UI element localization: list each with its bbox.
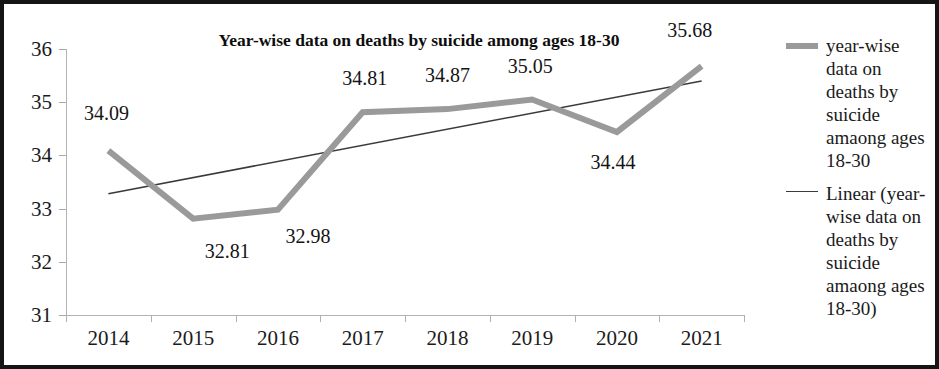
y-axis-tick-mark (59, 155, 66, 156)
legend-label-trendline: Linear (year-wise data on deaths by suic… (826, 182, 931, 320)
y-axis-tick-label: 31 (8, 305, 52, 326)
data-point-label: 32.98 (285, 225, 330, 248)
data-point-label: 35.05 (508, 55, 553, 78)
chart-legend: year-wise data on deaths by suicide amao… (786, 34, 931, 330)
y-axis-tick-label: 35 (8, 92, 52, 113)
legend-entry-series[interactable]: year-wise data on deaths by suicide amao… (786, 34, 931, 172)
data-series-line (108, 66, 701, 219)
x-axis-tick-label: 2015 (172, 326, 214, 351)
x-axis-tick-mark (744, 315, 745, 322)
x-axis-tick-label: 2016 (257, 326, 299, 351)
x-axis-tick-mark (236, 315, 237, 322)
chart-inner-area: Year-wise data on deaths by suicide amon… (4, 4, 935, 365)
y-axis-tick-mark (59, 262, 66, 263)
data-point-label: 34.44 (590, 151, 635, 174)
data-point-label: 34.09 (84, 102, 129, 125)
x-axis-tick-label: 2019 (511, 326, 553, 351)
x-axis-tick-mark (659, 315, 660, 322)
data-point-label: 35.68 (667, 19, 712, 42)
linear-trendline (108, 81, 701, 194)
legend-line-icon-trendline (786, 191, 818, 192)
y-axis-tick-label: 34 (8, 145, 52, 166)
x-axis-tick-label: 2021 (681, 326, 723, 351)
legend-label-series: year-wise data on deaths by suicide amao… (826, 34, 931, 172)
data-point-label: 34.87 (425, 64, 470, 87)
chart-figure: Year-wise data on deaths by suicide amon… (0, 0, 939, 369)
x-axis-tick-label: 2020 (596, 326, 638, 351)
x-axis-tick-label: 2018 (426, 326, 468, 351)
chart-title: Year-wise data on deaths by suicide amon… (184, 30, 654, 51)
x-axis-tick-mark (405, 315, 406, 322)
y-axis-tick-mark (59, 102, 66, 103)
y-axis-tick-label: 36 (8, 39, 52, 60)
x-axis-tick-label: 2017 (342, 326, 384, 351)
x-axis-tick-mark (66, 315, 67, 322)
data-point-label: 34.81 (342, 67, 387, 90)
y-axis-tick-mark (59, 315, 66, 316)
x-axis-tick-label: 2014 (87, 326, 129, 351)
legend-entry-trendline[interactable]: Linear (year-wise data on deaths by suic… (786, 182, 931, 320)
x-axis-tick-mark (490, 315, 491, 322)
x-axis-tick-mark (151, 315, 152, 322)
legend-line-icon-series (786, 43, 818, 49)
y-axis-tick-mark (59, 209, 66, 210)
series-lines (66, 49, 744, 315)
data-point-label: 32.81 (205, 240, 250, 263)
plot-area: 313233343536 201420152016201720182019202… (66, 49, 744, 315)
x-axis-tick-mark (320, 315, 321, 322)
y-axis-tick-label: 33 (8, 198, 52, 219)
y-axis-tick-label: 32 (8, 251, 52, 272)
x-axis-tick-mark (575, 315, 576, 322)
y-axis-tick-mark (59, 49, 66, 50)
